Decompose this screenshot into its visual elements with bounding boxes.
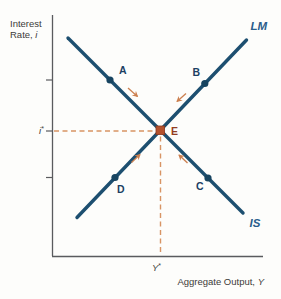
point-b-marker	[201, 80, 208, 87]
point-d-marker	[111, 174, 118, 181]
y-axis-title-line2-prefix: Rate,	[10, 29, 35, 40]
x-axis-title-prefix: Aggregate Output,	[177, 276, 257, 287]
is-curve-label: IS	[250, 217, 261, 229]
equilibrium-point-label: E	[171, 125, 178, 137]
point-d-label: D	[117, 183, 125, 195]
point-a-label: A	[119, 64, 127, 76]
diagram-canvas: A B C D E LM IS Interest Rate, i i* Y* A…	[0, 0, 281, 299]
point-c-marker	[204, 174, 211, 181]
point-a-marker	[106, 76, 113, 83]
lm-curve-label: LM	[251, 20, 268, 32]
equilibrium-point-marker	[156, 126, 165, 135]
adjustment-arrow-from-a	[128, 88, 138, 97]
y-axis-title-line1: Interest	[10, 18, 42, 29]
point-c-label: C	[196, 180, 204, 192]
y-star-label: Y*	[152, 262, 161, 274]
is-lm-diagram: A B C D E LM IS Interest Rate, i i* Y* A…	[0, 0, 281, 299]
y-axis-title-line2: Rate, i	[10, 29, 38, 40]
x-axis-title-variable: Y	[258, 276, 265, 287]
is-curve	[68, 38, 243, 213]
adjustment-arrow-from-b	[177, 94, 186, 102]
y-axis-title-variable: i	[35, 29, 38, 40]
point-b-label: B	[193, 66, 201, 78]
x-axis-title: Aggregate Output, Y	[177, 276, 264, 287]
i-star-label: i*	[39, 125, 44, 137]
